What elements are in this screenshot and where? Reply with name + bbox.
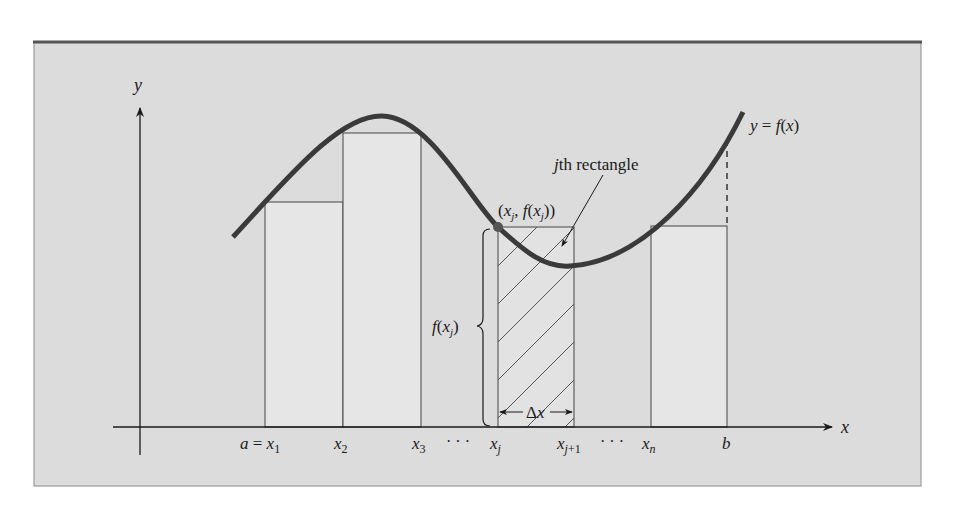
height-label: f(xj) xyxy=(432,317,459,338)
tick-label-dots-1: · · · xyxy=(446,433,470,450)
rectangle-n xyxy=(651,226,727,427)
width-label: Δx xyxy=(526,403,545,422)
curve-label: y = f(x) xyxy=(748,116,799,135)
tick-label-a: a = x1 xyxy=(240,434,280,456)
x-axis-label: x xyxy=(840,417,849,437)
rectangle-2 xyxy=(343,133,421,427)
jth-rectangle-label: jth rectangle xyxy=(552,155,639,174)
riemann-sum-figure: y x y = f(x) jth rectangle (xj, f(xj)) f… xyxy=(0,0,955,507)
point-label: (xj, f(xj)) xyxy=(498,201,555,222)
rectangle-1 xyxy=(265,202,343,427)
tick-label-b: b xyxy=(722,434,731,453)
tick-label-dots-2: · · · xyxy=(600,433,624,450)
point-xj-fxj xyxy=(493,222,503,232)
y-axis-label: y xyxy=(132,75,142,95)
figure-frame xyxy=(34,42,921,486)
